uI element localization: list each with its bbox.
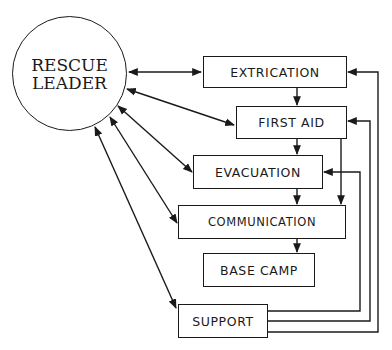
edge-leader-evacuation: [118, 106, 192, 172]
node-label: EVACUATION: [215, 165, 301, 180]
node-support: SUPPORT: [178, 304, 268, 338]
node-label: COMMUNICATION: [208, 215, 316, 229]
rescue-leader-line2: LEADER: [32, 74, 107, 92]
edge-leader-support: [95, 127, 176, 308]
node-label: EXTRICATION: [230, 65, 320, 80]
node-extrication: EXTRICATION: [203, 56, 347, 88]
edge-leader-first-aid: [127, 89, 234, 125]
edge-support-evacuation: [268, 172, 360, 311]
node-communication: COMMUNICATION: [178, 205, 346, 239]
node-first-aid: FIRST AID: [236, 106, 347, 139]
node-label: FIRST AID: [258, 115, 324, 130]
node-evacuation: EVACUATION: [193, 155, 323, 189]
rescue-organization-diagram: RESCUE LEADER EXTRICATION FIRST AID EVAC…: [0, 0, 392, 350]
rescue-leader-line1: RESCUE: [31, 56, 108, 74]
rescue-leader-node: RESCUE LEADER: [12, 16, 127, 131]
node-base-camp: BASE CAMP: [203, 253, 315, 287]
node-label: BASE CAMP: [220, 263, 298, 278]
edge-leader-communication: [110, 117, 177, 223]
node-label: SUPPORT: [192, 314, 254, 329]
